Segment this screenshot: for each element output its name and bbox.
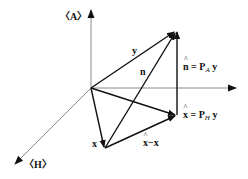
n-hat-equation-label: n = PA y <box>183 62 217 74</box>
x-hat-equation-label: x = PH y <box>183 110 217 122</box>
axis-A-label: 〈A〉 <box>60 12 87 22</box>
vector-x-label: x <box>92 139 97 149</box>
vector-projection-diagram <box>0 0 248 179</box>
vector-n-label: n <box>140 67 146 77</box>
x-hat-minus-x-label: x−x <box>143 138 159 148</box>
x-hat-eq: = P <box>188 109 205 120</box>
axis-H <box>15 88 91 164</box>
axis-H-label: 〈H〉 <box>24 160 52 170</box>
x-hat-minus-x-tail: −x <box>148 137 159 148</box>
n-hat-eq: = P <box>189 61 206 72</box>
vector-x-hat <box>91 88 175 115</box>
n-hat-tail: y <box>210 61 218 72</box>
x-hat-minus-x-symbol: x <box>143 138 148 148</box>
vector-y <box>91 32 174 88</box>
n-hat-symbol: n <box>183 62 189 72</box>
vector-y-label: y <box>132 46 137 56</box>
vector-n <box>105 33 175 148</box>
x-hat-tail: y <box>210 109 218 120</box>
x-hat-symbol: x <box>183 110 188 120</box>
